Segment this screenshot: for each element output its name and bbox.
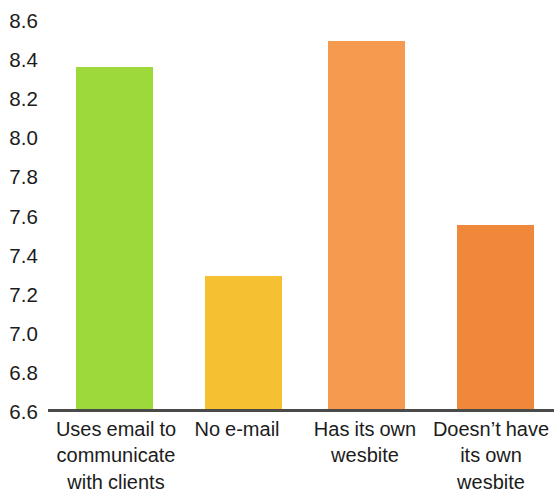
x-axis-category-label: Has its own wesbite [300, 416, 430, 469]
y-axis-tick-label: 7.2 [9, 284, 38, 305]
bar [457, 225, 534, 409]
y-axis-tick-label: 7.0 [9, 324, 38, 345]
plot-area [48, 0, 554, 412]
y-axis-tick-label: 6.6 [9, 402, 38, 423]
y-axis-tick-label: 8.0 [9, 128, 38, 149]
y-axis-tick-label: 8.4 [9, 50, 38, 71]
x-axis-category-label: Doesn’t have its own wesbite [430, 416, 552, 495]
y-axis-tick-label: 7.6 [9, 206, 38, 227]
y-axis-tick-label: 7.8 [9, 167, 38, 188]
x-axis-line [48, 409, 554, 412]
bar-chart: 8.68.48.28.07.87.67.47.27.06.86.6 Uses e… [0, 0, 554, 502]
y-axis-tick-label: 7.4 [9, 245, 38, 266]
y-axis-tick-label: 8.2 [9, 89, 38, 110]
bar [76, 67, 153, 409]
bar [205, 276, 282, 409]
x-axis-category-label: No e-mail [174, 416, 300, 442]
x-axis-category-label: Uses email to communicate with clients [46, 416, 186, 495]
y-axis: 8.68.48.28.07.87.67.47.27.06.86.6 [0, 0, 46, 412]
y-axis-tick-label: 8.6 [9, 11, 38, 32]
bar [328, 41, 405, 409]
x-axis-category-labels: Uses email to communicate with clientsNo… [48, 416, 554, 502]
y-axis-tick-label: 6.8 [9, 363, 38, 384]
